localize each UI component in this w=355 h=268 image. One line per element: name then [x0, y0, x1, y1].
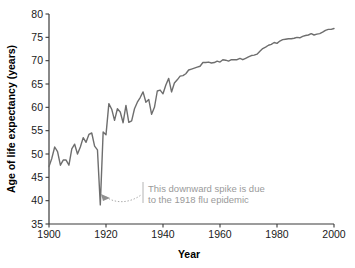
leader-arrowhead	[101, 194, 110, 201]
y-tick-label: 75	[31, 31, 43, 43]
annotation-leader	[101, 182, 143, 203]
x-tick-label: 2000	[322, 228, 346, 240]
y-tick-label: 50	[31, 148, 43, 160]
x-tick-label: 1940	[151, 228, 175, 240]
annotation-line-1: This downward spike is due	[148, 183, 265, 194]
y-tick-label: 60	[31, 101, 43, 113]
y-tick-label: 55	[31, 124, 43, 136]
life-expectancy-chart-figure: 35404550556065707580 1900192019401960198…	[0, 0, 355, 268]
x-tick-label: 1920	[94, 228, 118, 240]
y-tick-label: 80	[31, 8, 43, 20]
x-axis-title: Year	[178, 248, 200, 260]
x-tick-label: 1900	[37, 228, 61, 240]
chart-canvas: 35404550556065707580 1900192019401960198…	[0, 0, 355, 268]
y-tick-label: 65	[31, 78, 43, 90]
y-axis-title: Age of life expectancy (years)	[5, 45, 17, 193]
y-axis-ticks: 35404550556065707580	[31, 8, 49, 230]
x-axis-ticks: 190019201940196019802000	[37, 224, 346, 240]
y-tick-label: 40	[31, 194, 43, 206]
annotation-line-2: to the 1918 flu epidemic	[148, 194, 249, 205]
x-tick-label: 1960	[208, 228, 232, 240]
x-tick-label: 1980	[265, 228, 289, 240]
y-tick-label: 70	[31, 54, 43, 66]
y-tick-label: 45	[31, 171, 43, 183]
leader-dotted-curve	[106, 195, 141, 202]
life-expectancy-line	[49, 28, 334, 204]
